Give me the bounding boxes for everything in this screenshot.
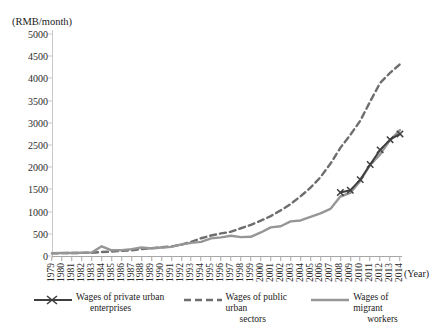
chart-legend: Wages of private urban enterprises Wages…: [34, 292, 414, 325]
x-axis-tick-mark: [121, 257, 122, 261]
x-axis-tick-mark: [260, 257, 261, 261]
x-axis-tick-mark: [390, 257, 391, 261]
x-axis-tick: 2004: [296, 257, 306, 282]
wage-trend-line-chart: (RMB/month) 0500100015002000250030003500…: [0, 0, 444, 328]
x-axis-tick-label: 2002: [276, 263, 286, 282]
y-axis-tick-label: 4500: [28, 51, 48, 62]
x-axis-tick-label: 2001: [266, 263, 276, 282]
y-axis-unit-label: (RMB/month): [12, 16, 72, 27]
legend-label-line1: Wages of public urban: [226, 292, 288, 313]
x-axis-tick-mark: [270, 257, 271, 261]
legend-swatch-public-urban-sectors: [184, 293, 222, 307]
x-axis-tick-mark: [380, 257, 381, 261]
x-axis-tick-mark: [250, 257, 251, 261]
y-axis-tick-label: 1000: [28, 206, 48, 217]
x-axis-tick-mark: [221, 257, 222, 261]
y-axis-tick-label: 5000: [28, 29, 48, 40]
x-axis-tick-label: 2004: [296, 263, 306, 282]
x-axis-title: (Year): [404, 268, 429, 279]
x-axis-tick-mark: [111, 257, 112, 261]
x-axis-tick-label: 1980: [57, 263, 67, 282]
x-axis-tick-mark: [360, 257, 361, 261]
x-axis-tick: 1983: [87, 257, 97, 282]
x-axis-tick-label: 1983: [87, 263, 97, 282]
x-axis-tick-mark: [61, 257, 62, 261]
legend-label-line2: enterprises: [76, 303, 164, 314]
x-axis-tick-mark: [141, 257, 142, 261]
x-axis-tick-mark: [211, 257, 212, 261]
x-axis-tick-mark: [240, 257, 241, 261]
x-axis-tick: 1981: [67, 257, 77, 282]
series-line-1: [52, 64, 400, 253]
y-axis-tick-label: 3000: [28, 117, 48, 128]
y-axis-tick-label: 2000: [28, 162, 48, 173]
series-line-0: [340, 134, 400, 193]
x-axis-tick-mark: [52, 257, 53, 261]
x-axis-tick-mark: [101, 257, 102, 261]
legend-item-private-urban-enterprises: Wages of private urban enterprises: [34, 292, 174, 314]
legend-swatch-migrant-workers: [311, 293, 349, 307]
x-axis-tick-mark: [230, 257, 231, 261]
x-axis-tick: 2002: [276, 257, 286, 282]
x-axis-tick-mark: [71, 257, 72, 261]
x-axis-tick-mark: [91, 257, 92, 261]
x-axis-tick-mark: [81, 257, 82, 261]
x-axis-tick-mark: [131, 257, 132, 261]
x-axis-tick-mark: [201, 257, 202, 261]
x-axis-tick-mark: [290, 257, 291, 261]
legend-swatch-private-urban-enterprises: [34, 293, 72, 307]
x-axis-tick: 2003: [286, 257, 296, 282]
x-axis-tick: 1984: [97, 257, 107, 282]
x-axis-tick-label: 1984: [97, 263, 107, 282]
x-axis-tick: 1986: [117, 257, 127, 282]
x-axis-tick-mark: [310, 257, 311, 261]
legend-label-public-urban-sectors: Wages of public urban sectors: [226, 292, 302, 325]
legend-item-migrant-workers: Wages of migrant workers: [311, 292, 414, 325]
x-axis-tick: 2000: [256, 257, 266, 282]
x-axis-tick-mark: [191, 257, 192, 261]
x-axis-tick-label: 1999: [246, 263, 256, 282]
series-lines: [52, 34, 400, 256]
x-axis-tick-mark: [171, 257, 172, 261]
x-axis-tick-label: 1982: [77, 263, 87, 282]
x-axis-tick-mark: [370, 257, 371, 261]
y-axis-tick-label: 3500: [28, 95, 48, 106]
legend-label-migrant-workers: Wages of migrant workers: [353, 292, 414, 325]
x-axis-tick-mark: [181, 257, 182, 261]
x-axis-tick: 1999: [246, 257, 256, 282]
x-axis-tick: 1985: [107, 257, 117, 282]
x-axis-tick-label: 1981: [67, 263, 77, 282]
x-axis-tick-mark: [151, 257, 152, 261]
legend-label-line2: sectors: [226, 314, 302, 325]
x-axis-tick-label: 1998: [236, 263, 246, 282]
plot-area: 0500100015002000250030003500400045005000: [52, 34, 400, 256]
x-axis-tick-mark: [340, 257, 341, 261]
x-axis-tick-label: 1986: [117, 263, 127, 282]
x-axis-tick-label: 2000: [256, 263, 266, 282]
x-axis-tick-mark: [320, 257, 321, 261]
x-axis-tick: 1980: [57, 257, 67, 282]
y-axis-tick-label: 2500: [28, 140, 48, 151]
x-axis-tick: 1998: [236, 257, 246, 282]
y-axis-tick-label: 1500: [28, 184, 48, 195]
legend-label-private-urban-enterprises: Wages of private urban enterprises: [76, 292, 164, 314]
y-axis-tick-label: 500: [33, 228, 48, 239]
x-axis-tick-mark: [280, 257, 281, 261]
x-axis-tick: 1982: [77, 257, 87, 282]
x-axis-tick-mark: [350, 257, 351, 261]
x-axis-tick-label: 1985: [107, 263, 117, 282]
x-axis-tick-mark: [161, 257, 162, 261]
x-axis-tick-mark: [300, 257, 301, 261]
legend-label-line2: workers: [353, 314, 414, 325]
x-axis-tick-mark: [330, 257, 331, 261]
legend-item-public-urban-sectors: Wages of public urban sectors: [184, 292, 302, 325]
legend-label-line1: Wages of migrant: [353, 292, 388, 313]
x-axis-tick-mark: [400, 257, 401, 261]
y-axis-tick-label: 4000: [28, 73, 48, 84]
legend-label-line1: Wages of private urban: [76, 292, 164, 302]
x-axis-tick: 2001: [266, 257, 276, 282]
x-axis-tick-label: 2003: [286, 263, 296, 282]
